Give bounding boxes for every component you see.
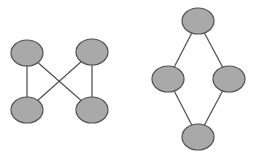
node-d	[182, 124, 214, 150]
crossed-square-graph	[11, 39, 108, 123]
node-c	[11, 97, 43, 123]
graph-diagram	[0, 0, 253, 159]
node-b	[76, 39, 108, 65]
node-a	[11, 40, 43, 66]
node-d	[76, 97, 108, 123]
diamond-graph	[152, 8, 245, 150]
node-b	[152, 66, 184, 92]
node-a	[182, 8, 214, 34]
node-c	[213, 66, 245, 92]
